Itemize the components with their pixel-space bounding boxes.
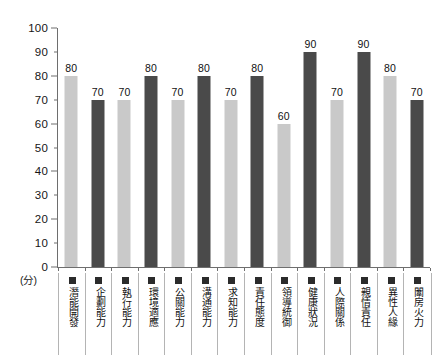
- bar[interactable]: [91, 100, 104, 267]
- legend-square-icon: [175, 277, 182, 284]
- bar-chart: 0102030405060708090100 (分) 8070708070807…: [0, 0, 436, 359]
- category-label-cell[interactable]: 環境適應: [138, 273, 166, 355]
- bar[interactable]: [65, 76, 78, 267]
- category-label-text: 人際關係: [333, 287, 344, 327]
- y-tick-mark-0: [51, 267, 57, 268]
- bar[interactable]: [251, 76, 264, 267]
- bar-series: 8070708070807080609070908070: [58, 28, 430, 267]
- category-label-cell[interactable]: 人際關係: [324, 273, 352, 355]
- bar-slot: 80: [138, 28, 165, 267]
- bar-value-label: 70: [118, 86, 130, 98]
- bar-slot: 70: [403, 28, 430, 267]
- bar-slot: 90: [350, 28, 377, 267]
- y-tick-mark-100: [51, 28, 57, 29]
- category-label-text: 異性人緣: [386, 287, 397, 327]
- y-tick-label-20: 20: [35, 213, 48, 225]
- bar-slot: 80: [377, 28, 404, 267]
- bar-slot: 60: [271, 28, 298, 267]
- category-label-cell[interactable]: 執行能力: [111, 273, 139, 355]
- y-tick-label-30: 30: [35, 189, 48, 201]
- y-tick-label-40: 40: [35, 165, 48, 177]
- bar[interactable]: [410, 100, 423, 267]
- category-label-text: 執行能力: [120, 287, 131, 327]
- bar-slot: 70: [164, 28, 191, 267]
- y-tick-mark-90: [54, 51, 57, 52]
- legend-square-icon: [255, 277, 262, 284]
- legend-square-icon: [388, 277, 395, 284]
- x-tick-mark: [350, 268, 351, 271]
- category-label-cell[interactable]: 異性人緣: [377, 273, 405, 355]
- y-tick-label-90: 90: [35, 46, 48, 58]
- category-label-row: 潛能開發企劃能力執行能力環境適應公關能力溝通能力求知能力責任態度領導統御健康狀況…: [57, 273, 430, 355]
- category-label-cell[interactable]: 領導統御: [271, 273, 299, 355]
- x-tick-mark: [191, 268, 192, 271]
- y-tick-mark-30: [54, 195, 57, 196]
- bar-value-label: 70: [411, 86, 423, 98]
- category-label-cell[interactable]: 企劃能力: [85, 273, 113, 355]
- x-tick-mark: [85, 268, 86, 271]
- bar[interactable]: [198, 76, 211, 267]
- category-label-cell[interactable]: 親情責任: [350, 273, 378, 355]
- y-tick-mark-60: [51, 123, 57, 124]
- y-axis-tick-labels: 0102030405060708090100: [0, 28, 57, 268]
- category-label-cell[interactable]: 潛能開發: [58, 273, 86, 355]
- category-label-text: 潛能開發: [67, 287, 78, 327]
- bar-slot: 90: [297, 28, 324, 267]
- bar[interactable]: [277, 124, 290, 267]
- bar[interactable]: [384, 76, 397, 267]
- bar-slot: 70: [324, 28, 351, 267]
- bar[interactable]: [330, 100, 343, 267]
- category-label-text: 健康狀況: [306, 287, 317, 327]
- y-axis-unit-label: (分): [20, 272, 37, 287]
- bar[interactable]: [304, 52, 317, 267]
- bar-slot: 80: [58, 28, 85, 267]
- category-label-cell[interactable]: 健康狀況: [297, 273, 325, 355]
- category-label-text: 親情責任: [359, 287, 370, 327]
- x-tick-mark: [377, 268, 378, 271]
- x-tick-mark: [297, 268, 298, 271]
- x-axis-tick-marks: [58, 268, 430, 272]
- bar[interactable]: [357, 52, 370, 267]
- y-tick-label-10: 10: [35, 237, 48, 249]
- y-tick-label-50: 50: [35, 142, 48, 154]
- bar-value-label: 80: [145, 62, 157, 74]
- category-label-text: 公關能力: [173, 287, 184, 327]
- bar-value-label: 70: [331, 86, 343, 98]
- bar-value-label: 80: [384, 62, 396, 74]
- category-label-cell[interactable]: 溝通能力: [191, 273, 219, 355]
- y-tick-mark-40: [51, 171, 57, 172]
- bar[interactable]: [144, 76, 157, 267]
- x-tick-mark: [430, 268, 431, 271]
- legend-square-icon: [414, 277, 421, 284]
- bar-value-label: 90: [358, 38, 370, 50]
- bar[interactable]: [118, 100, 131, 267]
- category-label-cell[interactable]: 公關能力: [164, 273, 192, 355]
- category-label-text: 闈房火力: [412, 287, 423, 327]
- bar-value-label: 70: [225, 86, 237, 98]
- y-tick-mark-50: [54, 147, 57, 148]
- category-label-text: 環境適應: [147, 287, 158, 327]
- x-tick-mark: [244, 268, 245, 271]
- bar[interactable]: [171, 100, 184, 267]
- category-label-cell[interactable]: 責任態度: [244, 273, 272, 355]
- x-tick-mark: [217, 268, 218, 271]
- legend-square-icon: [361, 277, 368, 284]
- legend-square-icon: [122, 277, 129, 284]
- category-label-cell[interactable]: 求知能力: [217, 273, 245, 355]
- bar-value-label: 60: [278, 110, 290, 122]
- legend-square-icon: [228, 277, 235, 284]
- bar-value-label: 80: [198, 62, 210, 74]
- bar-value-label: 80: [65, 62, 77, 74]
- category-label-text: 溝通能力: [200, 287, 211, 327]
- legend-square-icon: [281, 277, 288, 284]
- x-tick-mark: [58, 268, 59, 271]
- x-tick-mark: [138, 268, 139, 271]
- legend-square-icon: [308, 277, 315, 284]
- bar[interactable]: [224, 100, 237, 267]
- bar-slot: 70: [111, 28, 138, 267]
- x-tick-mark: [111, 268, 112, 271]
- category-label-text: 責任態度: [253, 287, 264, 327]
- category-label-cell[interactable]: 闈房火力: [403, 273, 432, 355]
- bar-slot: 70: [217, 28, 244, 267]
- y-tick-label-80: 80: [35, 70, 48, 82]
